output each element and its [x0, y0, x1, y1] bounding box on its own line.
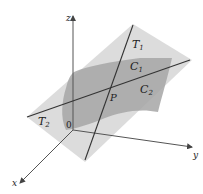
- z-axis-label: z: [65, 13, 71, 23]
- x-axis: [20, 130, 73, 183]
- origin-label: 0: [66, 120, 72, 130]
- y-axis-label: y: [192, 150, 199, 160]
- diagram-canvas: z y x 0 T1 C1 C2 P T2: [0, 0, 203, 194]
- x-axis-label: x: [12, 178, 17, 188]
- point-p-label: P: [109, 92, 117, 103]
- tangent-plane-diagram: z y x 0 T1 C1 C2 P T2: [0, 0, 203, 194]
